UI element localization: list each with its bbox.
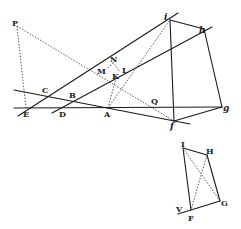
main-figure	[14, 13, 222, 124]
label-G: G	[221, 198, 228, 208]
label-Q: Q	[151, 96, 158, 106]
line-H-G	[207, 155, 220, 201]
label-h: h	[199, 25, 206, 35]
label-E: E	[23, 109, 29, 119]
line-E-g	[14, 107, 222, 108]
label-P: P	[12, 18, 18, 28]
label-F: F	[188, 213, 194, 223]
line-I-F	[183, 148, 191, 210]
label-C: C	[42, 85, 48, 95]
dotted-P-E	[17, 26, 26, 108]
line-V-G	[178, 201, 220, 214]
small-figure	[178, 148, 220, 214]
label-B: B	[69, 90, 76, 100]
label-H: H	[206, 146, 214, 156]
label-A: A	[103, 109, 111, 119]
dotted-A-i	[108, 20, 170, 108]
geometric-diagram: P i h g f E D A C B M N K L Q I H G F V	[0, 0, 241, 229]
line-i-f	[170, 20, 174, 121]
label-K: K	[112, 71, 120, 81]
label-N: N	[110, 54, 117, 64]
label-L: L	[122, 65, 128, 75]
label-I: I	[181, 139, 185, 149]
label-f: f	[169, 121, 176, 131]
line-D-h	[52, 27, 212, 113]
line-I-H	[183, 148, 207, 155]
label-g: g	[223, 103, 229, 113]
line-f-g	[174, 107, 222, 121]
dotted-P-f	[17, 26, 174, 121]
label-M: M	[97, 66, 106, 76]
label-i: i	[164, 12, 168, 22]
line-h-g	[204, 29, 222, 107]
label-D: D	[59, 109, 66, 119]
label-V: V	[175, 204, 183, 214]
